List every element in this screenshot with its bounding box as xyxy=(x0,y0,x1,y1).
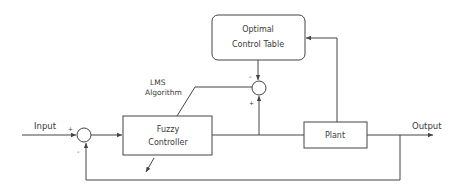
optimal-control-table-block xyxy=(212,15,305,60)
lms-adaptation-line xyxy=(177,87,252,116)
fuzzy-controller-label-1: Fuzzy xyxy=(157,125,180,134)
fuzzy-controller-label-2: Controller xyxy=(148,138,188,147)
plant-to-table-line xyxy=(306,38,337,122)
sum2-plus-sign: + xyxy=(249,99,254,106)
input-label: Input xyxy=(34,121,57,131)
block-diagram: Input Output LMS Algorithm Optimal Contr… xyxy=(0,0,468,192)
fuzzy-controller-block xyxy=(123,116,212,155)
output-label: Output xyxy=(412,121,442,131)
summing-junction-2 xyxy=(252,81,266,95)
optimal-control-table-label-2: Control Table xyxy=(232,40,284,49)
summing-junction-1 xyxy=(77,128,91,142)
plant-label: Plant xyxy=(325,131,345,140)
optimal-control-table-label-1: Optimal xyxy=(242,25,274,34)
adaptation-arrow xyxy=(146,158,154,172)
lms-label-line1: LMS xyxy=(150,78,166,87)
sum2-minus-sign: - xyxy=(249,73,252,81)
lms-label-line2: Algorithm xyxy=(145,88,182,97)
sum1-plus-sign: + xyxy=(68,125,73,132)
sum1-minus-sign: - xyxy=(77,148,80,156)
